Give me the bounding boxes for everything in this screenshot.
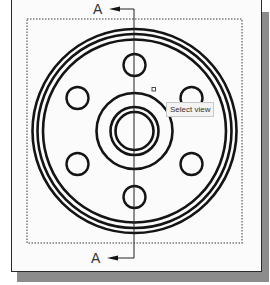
flange-front-view[interactable] <box>0 0 270 285</box>
section-arrow-bottom-head <box>107 256 118 261</box>
drawing-canvas: A A Select view <box>0 0 270 285</box>
cursor-pickbox-icon <box>152 88 156 92</box>
section-arrow-top-head <box>109 7 120 12</box>
bolt-hole-upper-left <box>67 87 89 109</box>
section-label-bottom: A <box>91 251 100 265</box>
section-label-top: A <box>93 2 102 16</box>
bolt-hole-lower-left <box>67 153 89 175</box>
select-view-tooltip: Select view <box>166 102 214 117</box>
bolt-hole-lower-right <box>181 153 203 175</box>
